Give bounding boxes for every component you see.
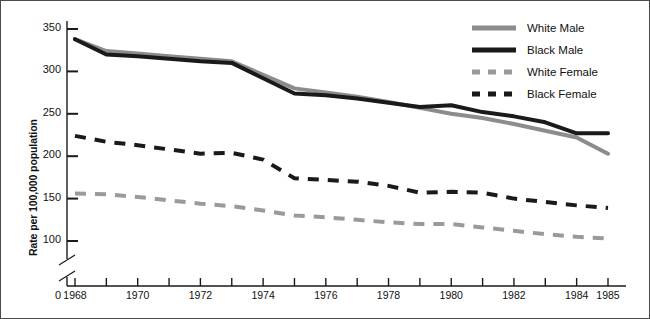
- legend-item-black-male: Black Male: [471, 39, 598, 61]
- x-tick-label: 1976: [302, 289, 350, 301]
- legend-swatch-black-male: [471, 39, 517, 61]
- legend-label-white-male: White Male: [527, 22, 585, 34]
- x-tick-label: 1982: [490, 289, 538, 301]
- legend-label-white-female: White Female: [527, 66, 598, 78]
- legend-swatch-white-male: [471, 17, 517, 39]
- legend-swatch-white-female: [471, 61, 517, 83]
- y-tick-label: 150: [19, 191, 61, 203]
- series-line: [75, 136, 608, 208]
- x-tick-label: 1978: [365, 289, 413, 301]
- legend-label-black-male: Black Male: [527, 44, 583, 56]
- chart-legend: White Male Black Male White Female Black…: [471, 17, 598, 105]
- y-tick-label: 300: [19, 63, 61, 75]
- x-tick-label: 1974: [239, 289, 287, 301]
- x-tick-label: 1985: [584, 289, 632, 301]
- chart-figure: Rate per 100,000 population White Male B…: [0, 0, 650, 319]
- legend-item-black-female: Black Female: [471, 83, 598, 105]
- y-tick-label: 200: [19, 148, 61, 160]
- x-tick-label: 1980: [427, 289, 475, 301]
- legend-swatch-black-female: [471, 83, 517, 105]
- x-tick-label: 1968: [51, 289, 99, 301]
- y-tick-label: 350: [19, 21, 61, 33]
- x-tick-label: 1970: [114, 289, 162, 301]
- y-tick-label: 250: [19, 106, 61, 118]
- legend-item-white-female: White Female: [471, 61, 598, 83]
- x-tick-label: 1972: [176, 289, 224, 301]
- legend-item-white-male: White Male: [471, 17, 598, 39]
- y-tick-label: 100: [19, 233, 61, 245]
- legend-label-black-female: Black Female: [527, 88, 597, 100]
